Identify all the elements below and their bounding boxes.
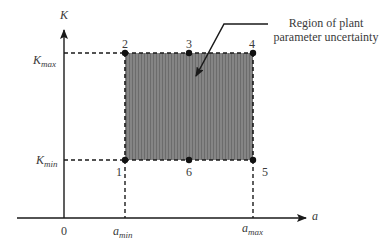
uncertainty-region-diagram: Region of plant parameter uncertainty K …	[0, 0, 379, 242]
vertex-label-6: 6	[186, 166, 192, 178]
annotation-text: Region of plant parameter uncertainty	[272, 16, 379, 44]
vertex-label-5: 5	[262, 166, 268, 178]
x-tick-amax: amax	[242, 222, 263, 237]
origin-label: 0	[61, 225, 67, 237]
vertex-label-4: 4	[249, 38, 255, 50]
vertex-label-1: 1	[116, 166, 122, 178]
vertex-label-3: 3	[186, 38, 192, 50]
y-axis-label: K	[60, 9, 68, 21]
vertex-dot-5	[250, 157, 256, 163]
annotation-line-2: parameter uncertainty	[272, 30, 379, 44]
uncertainty-region	[125, 53, 253, 160]
annotation-line-1: Region of plant	[272, 16, 379, 30]
y-tick-kmin: Kmin	[36, 154, 58, 169]
vertex-dot-6	[186, 157, 192, 163]
x-axis-label: a	[312, 210, 318, 222]
x-tick-amin: amin	[113, 225, 133, 240]
y-tick-kmax: Kmax	[33, 54, 56, 69]
vertex-dot-1	[122, 157, 128, 163]
vertex-label-2: 2	[122, 38, 128, 50]
